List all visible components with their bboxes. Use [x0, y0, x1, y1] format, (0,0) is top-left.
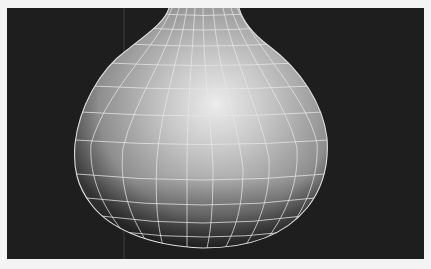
3d-viewport[interactable]: [7, 8, 424, 259]
vase-mesh[interactable]: [75, 8, 329, 248]
viewport-canvas[interactable]: [7, 8, 424, 259]
